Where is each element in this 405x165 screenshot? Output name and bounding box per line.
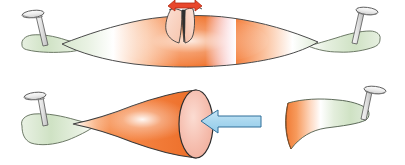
figure-canvas <box>0 0 405 165</box>
muscle-injury-figure: Partial muscle tear under tension Comple… <box>0 0 405 165</box>
